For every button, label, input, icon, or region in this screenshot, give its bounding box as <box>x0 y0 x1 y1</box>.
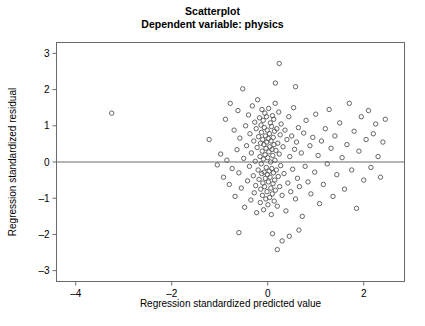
data-point <box>283 128 287 132</box>
data-point <box>293 197 297 201</box>
data-point <box>371 132 375 136</box>
data-point <box>242 205 246 209</box>
data-point <box>262 184 266 188</box>
data-point <box>281 145 285 149</box>
data-point <box>256 134 260 138</box>
y-tick-label: –1 <box>38 193 50 204</box>
data-point <box>266 203 270 207</box>
data-point <box>285 137 289 141</box>
y-tick-label: 1 <box>44 120 50 131</box>
data-point <box>306 180 310 184</box>
data-point <box>383 117 387 121</box>
data-point <box>342 187 346 191</box>
plot-area: –4–202–3–2–10123Regression standardized … <box>0 0 425 326</box>
data-point <box>266 106 270 110</box>
data-point <box>297 184 301 188</box>
data-point <box>259 130 263 134</box>
data-point <box>267 169 271 173</box>
data-point <box>313 170 317 174</box>
y-tick-label: 3 <box>44 48 50 59</box>
data-point <box>223 117 227 121</box>
data-point <box>252 139 256 143</box>
x-tick-label: –4 <box>70 288 82 299</box>
data-point <box>248 132 252 136</box>
data-point <box>237 230 241 234</box>
data-point <box>261 208 265 212</box>
data-point <box>257 177 261 181</box>
data-point <box>364 137 368 141</box>
data-point <box>276 141 280 145</box>
data-point <box>345 142 349 146</box>
data-point <box>278 184 282 188</box>
data-point <box>254 183 258 187</box>
data-point <box>347 101 351 105</box>
data-point <box>273 101 277 105</box>
data-point <box>374 122 378 126</box>
data-point <box>297 228 301 232</box>
y-tick-label: –3 <box>38 265 50 276</box>
data-point <box>221 175 225 179</box>
data-point <box>230 166 234 170</box>
data-point <box>316 153 320 157</box>
data-point <box>249 151 253 155</box>
data-point <box>237 171 241 175</box>
x-axis-title: Regression standardized predicted value <box>140 298 322 309</box>
data-point <box>110 111 114 115</box>
data-point <box>251 174 255 178</box>
data-point <box>262 125 266 129</box>
data-point <box>256 168 260 172</box>
data-point <box>317 201 321 205</box>
data-point <box>309 192 313 196</box>
x-tick-label: –2 <box>166 288 178 299</box>
data-point <box>277 152 281 156</box>
data-point <box>241 87 245 91</box>
data-point <box>287 234 291 238</box>
data-point <box>323 126 327 130</box>
data-point <box>255 98 259 102</box>
data-point <box>258 200 262 204</box>
data-point <box>261 118 265 122</box>
data-point <box>335 172 339 176</box>
data-point <box>291 105 295 109</box>
data-point <box>261 157 265 161</box>
x-tick-label: 0 <box>265 288 271 299</box>
data-point <box>300 214 304 218</box>
data-point <box>311 135 315 139</box>
data-point <box>253 120 257 124</box>
data-point <box>233 194 237 198</box>
y-tick-label: –2 <box>38 229 50 240</box>
data-point <box>273 81 277 85</box>
data-point <box>232 128 236 132</box>
data-point <box>289 189 293 193</box>
data-point <box>321 182 325 186</box>
data-point <box>274 168 278 172</box>
data-point <box>376 154 380 158</box>
data-point <box>236 108 240 112</box>
data-point <box>277 61 281 65</box>
data-point <box>270 166 274 170</box>
data-point <box>242 156 246 160</box>
data-point <box>340 155 344 159</box>
data-point <box>296 125 300 129</box>
data-point <box>254 126 258 130</box>
x-tick-label: 2 <box>361 288 367 299</box>
data-point <box>280 239 284 243</box>
data-point <box>369 165 373 169</box>
data-point <box>362 178 366 182</box>
data-point <box>282 171 286 175</box>
data-point <box>299 151 303 155</box>
data-point <box>243 124 247 128</box>
data-point <box>245 179 249 183</box>
data-point <box>287 115 291 119</box>
data-point <box>327 107 331 111</box>
data-point <box>303 164 307 168</box>
data-point <box>286 181 290 185</box>
data-point <box>263 153 267 157</box>
data-point <box>228 101 232 105</box>
data-point <box>271 153 275 157</box>
data-point <box>254 211 258 215</box>
y-tick-label: 2 <box>44 84 50 95</box>
data-point <box>304 118 308 122</box>
data-point <box>238 136 242 140</box>
y-axis-title: Regression standardized residual <box>7 88 18 236</box>
